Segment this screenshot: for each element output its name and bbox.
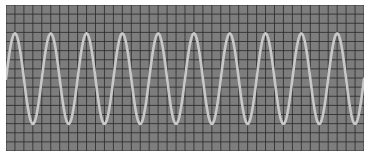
oscilloscope-display — [6, 5, 364, 151]
waveform-graph — [6, 5, 364, 151]
